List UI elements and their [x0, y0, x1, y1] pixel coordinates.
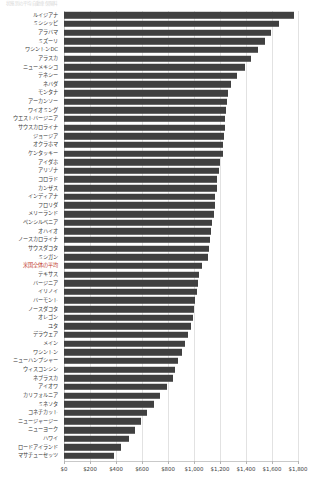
bar[interactable] — [64, 55, 251, 61]
bar[interactable] — [64, 401, 154, 407]
bar-row[interactable] — [64, 97, 298, 106]
bar-row[interactable] — [64, 80, 298, 89]
bar-row[interactable] — [64, 158, 298, 167]
bar-row[interactable] — [64, 106, 298, 115]
bar[interactable] — [64, 237, 210, 243]
bar-row[interactable] — [64, 331, 298, 340]
bar-row[interactable] — [64, 348, 298, 357]
bar-row[interactable] — [64, 175, 298, 184]
bar[interactable] — [64, 254, 208, 260]
bar-row[interactable] — [64, 296, 298, 305]
bar[interactable] — [64, 211, 214, 217]
bar-row[interactable] — [64, 184, 298, 193]
bar-row[interactable] — [64, 28, 298, 37]
bar-row[interactable] — [64, 426, 298, 435]
bar[interactable] — [64, 427, 135, 433]
bar-row[interactable] — [64, 313, 298, 322]
bar-row[interactable] — [64, 54, 298, 63]
bar[interactable] — [64, 98, 227, 104]
bar[interactable] — [64, 150, 223, 156]
bar[interactable] — [64, 90, 228, 96]
bar-row[interactable] — [64, 279, 298, 288]
bar-row[interactable] — [64, 192, 298, 201]
bar[interactable] — [64, 21, 279, 27]
bar[interactable] — [64, 392, 160, 398]
bar-row[interactable] — [64, 20, 298, 29]
bar[interactable] — [64, 219, 212, 225]
bar-row[interactable] — [64, 288, 298, 297]
bar[interactable] — [64, 453, 114, 459]
bar[interactable] — [64, 47, 258, 53]
bar-row[interactable] — [64, 236, 298, 245]
bar[interactable] — [64, 116, 225, 122]
bar[interactable] — [64, 142, 223, 148]
bar[interactable] — [64, 375, 173, 381]
bar[interactable] — [64, 29, 271, 35]
bar-row[interactable] — [64, 383, 298, 392]
bar[interactable] — [64, 444, 121, 450]
bar-row[interactable] — [64, 141, 298, 150]
bar[interactable] — [64, 176, 217, 182]
bar-row[interactable] — [64, 339, 298, 348]
bar-row[interactable] — [64, 365, 298, 374]
bar[interactable] — [64, 315, 193, 321]
bar-row[interactable] — [64, 115, 298, 124]
bar[interactable] — [64, 435, 129, 441]
bar[interactable] — [64, 297, 195, 303]
bar-row[interactable] — [64, 452, 298, 461]
bar[interactable] — [64, 280, 198, 286]
bar[interactable] — [64, 194, 215, 200]
bar[interactable] — [64, 384, 167, 390]
bar-row[interactable] — [64, 132, 298, 141]
bar[interactable] — [64, 159, 220, 165]
bar-row[interactable] — [64, 11, 298, 20]
bar[interactable] — [64, 418, 141, 424]
bar-row[interactable] — [64, 37, 298, 46]
bar-row[interactable] — [64, 63, 298, 72]
bar[interactable] — [64, 185, 217, 191]
bar-row[interactable] — [64, 46, 298, 55]
bar[interactable] — [64, 245, 209, 251]
bar[interactable] — [64, 410, 147, 416]
bar[interactable] — [64, 323, 191, 329]
bar[interactable] — [64, 271, 199, 277]
bar-row[interactable] — [64, 391, 298, 400]
bar-row[interactable] — [64, 244, 298, 253]
bar-row[interactable] — [64, 253, 298, 262]
bar[interactable] — [64, 349, 182, 355]
bar-row[interactable] — [64, 71, 298, 80]
bar-row[interactable] — [64, 201, 298, 210]
bar[interactable] — [64, 107, 226, 113]
bar[interactable] — [64, 133, 224, 139]
bar[interactable] — [64, 124, 225, 130]
bar-row[interactable] — [64, 374, 298, 383]
bar[interactable] — [64, 202, 215, 208]
bar[interactable] — [64, 340, 185, 346]
bar-row[interactable] — [64, 400, 298, 409]
bar-row[interactable] — [64, 123, 298, 132]
bar-row[interactable] — [64, 210, 298, 219]
bar[interactable] — [64, 81, 231, 87]
bar-row[interactable] — [64, 89, 298, 98]
bar-row[interactable] — [64, 322, 298, 331]
bar-row[interactable] — [64, 357, 298, 366]
bar[interactable] — [64, 332, 188, 338]
bar[interactable] — [64, 73, 237, 79]
bar[interactable] — [64, 64, 245, 70]
bar-row[interactable] — [64, 227, 298, 236]
bar-row[interactable] — [64, 408, 298, 417]
bar[interactable] — [64, 289, 197, 295]
bar-row[interactable] — [64, 417, 298, 426]
bar[interactable] — [64, 12, 294, 18]
bar[interactable] — [64, 306, 194, 312]
bar-row[interactable] — [64, 167, 298, 176]
bar[interactable] — [64, 358, 178, 364]
bar-row[interactable] — [64, 434, 298, 443]
bar[interactable] — [64, 263, 202, 269]
bar-row[interactable] — [64, 149, 298, 158]
bar[interactable] — [64, 366, 175, 372]
bar-row[interactable] — [64, 270, 298, 279]
bar-row[interactable] — [64, 305, 298, 314]
bar-row[interactable] — [64, 218, 298, 227]
bar[interactable] — [64, 168, 219, 174]
